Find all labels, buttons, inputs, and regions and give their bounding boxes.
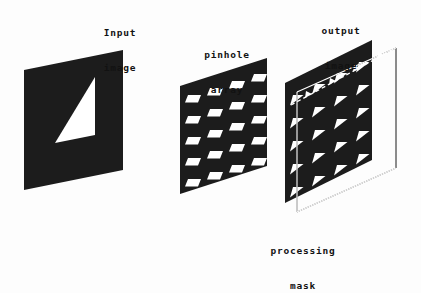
processing-mask-label: processing mask bbox=[244, 222, 362, 293]
input-image-label: Input image bbox=[77, 4, 163, 96]
input-image-label-line2: image bbox=[77, 62, 163, 74]
input-image-label-line1: Input bbox=[77, 27, 163, 39]
output-image-label-line2: image bbox=[298, 60, 384, 72]
output-image-label-line1: output bbox=[298, 25, 384, 37]
output-image-label: output image bbox=[298, 2, 384, 94]
pinhole-array-label-line2: array bbox=[178, 84, 276, 96]
processing-mask-label-line1: processing bbox=[244, 245, 362, 257]
pinhole-array-label-line1: pinhole bbox=[178, 49, 276, 61]
pinhole-array-label: pinhole array bbox=[178, 26, 276, 118]
processing-mask-label-line2: mask bbox=[244, 280, 362, 292]
